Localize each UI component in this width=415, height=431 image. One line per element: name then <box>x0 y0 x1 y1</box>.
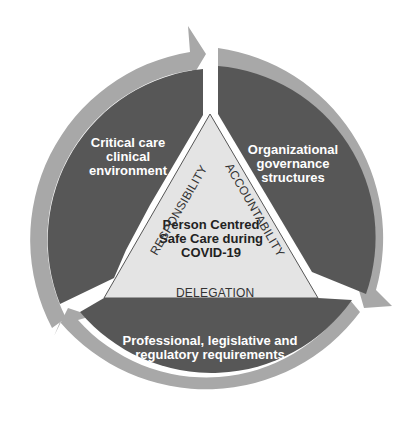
edge-label-delegation: DELEGATION <box>176 286 254 300</box>
label-line: Professional, legislative and <box>120 334 300 348</box>
label-line: Safe Care during <box>158 232 264 246</box>
label-line: environment <box>78 164 178 178</box>
label-line: regulatory requirements <box>120 348 300 362</box>
label-line: Critical care <box>78 136 178 150</box>
label-line: structures <box>242 171 344 185</box>
cycle-diagram <box>0 0 415 431</box>
segment-label-critical-care: Critical care clinical environment <box>78 136 178 178</box>
label-line: Organizational <box>242 143 344 157</box>
label-line: governance <box>242 157 344 171</box>
label-line: COVID-19 <box>158 246 264 260</box>
label-line: clinical <box>78 150 178 164</box>
segment-label-organizational: Organizational governance structures <box>242 143 344 185</box>
segment-label-professional: Professional, legislative and regulatory… <box>120 334 300 362</box>
